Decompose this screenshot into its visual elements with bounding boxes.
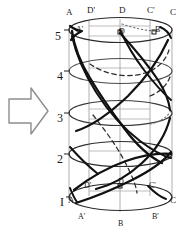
helix-curve-3 <box>76 40 168 131</box>
point-label-C-prime: C' <box>147 6 155 15</box>
axis-label-3: 3 <box>57 112 63 124</box>
point-label-D-prime: D' <box>87 6 95 15</box>
point-label-A: A <box>66 8 73 17</box>
axis-label-2: 2 <box>57 153 63 165</box>
axis-label-5: 5 <box>55 30 61 42</box>
point-label-C-prime: C' <box>149 182 156 190</box>
point-label-A-prime: A' <box>78 213 85 221</box>
axis-ticks <box>64 30 71 197</box>
point-label-A: A <box>68 196 75 205</box>
point-label-D-prime: D' <box>84 182 91 190</box>
point-label-D: D <box>119 6 126 15</box>
point-label-B: B <box>118 220 123 228</box>
point-label-D: D <box>118 178 124 186</box>
helix-curve-4 <box>72 36 171 158</box>
point-label-C: C <box>170 8 176 17</box>
point-label-C: C <box>170 196 176 205</box>
right-arrow-icon <box>9 88 48 134</box>
point-label-B-prime: B' <box>155 26 162 34</box>
point-label-B-prime: B' <box>152 213 159 221</box>
axis-label-I: I <box>60 196 64 208</box>
axis-label-4: 4 <box>57 70 63 82</box>
point-label-A-prime: A' <box>76 26 83 34</box>
cylinder-helix-figure <box>0 0 185 244</box>
point-label-D: D <box>119 28 125 36</box>
